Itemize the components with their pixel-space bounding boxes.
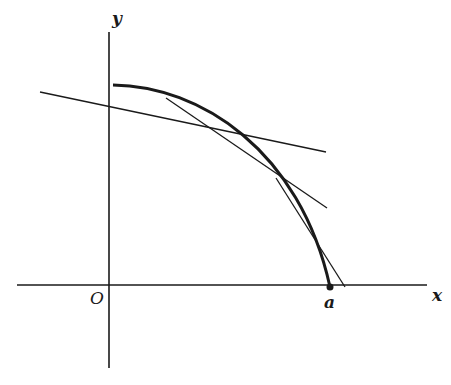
tangent-line-1 <box>40 92 326 152</box>
origin-label: O <box>90 288 104 308</box>
x-axis-label: x <box>431 285 443 305</box>
point-a-marker <box>327 284 334 291</box>
tangent-line-3 <box>276 178 345 287</box>
point-a-label: a <box>324 292 335 312</box>
tangent-line-2 <box>166 98 327 208</box>
tangent-curve-diagram: y O a x <box>0 0 451 385</box>
y-axis-label: y <box>111 8 123 28</box>
curve <box>113 85 330 287</box>
